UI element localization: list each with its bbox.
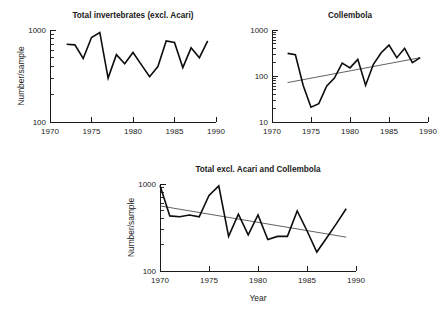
chart-panel-collembola: Collembola10100100019701975198019851990 <box>232 4 436 152</box>
y-tick-label: 100 <box>33 118 47 127</box>
y-tick-label: 100 <box>143 267 157 276</box>
x-tick-label: 1975 <box>83 127 101 136</box>
chart-panel-total-invertebrates: Total invertebrates (excl. Acari)1001000… <box>6 4 222 152</box>
x-tick-label: 1990 <box>347 276 365 285</box>
data-series-line <box>288 45 421 107</box>
y-tick-label: 10 <box>259 118 268 127</box>
trend-line <box>160 206 346 237</box>
chart-svg-total-invertebrates-excl-acari: Total invertebrates (excl. Acari)1001000… <box>6 4 222 152</box>
x-tick-label: 1980 <box>124 127 142 136</box>
figure-panel-group: Total invertebrates (excl. Acari)1001000… <box>0 0 440 317</box>
x-tick-label: 1970 <box>263 127 281 136</box>
chart-title: Total invertebrates (excl. Acari) <box>72 11 193 20</box>
trend-line <box>288 58 421 83</box>
x-axis-title: Year <box>250 293 267 303</box>
y-axis-title: Number/sample <box>16 46 26 105</box>
chart-title: Collembola <box>328 11 373 20</box>
chart-title: Total excl. Acari and Collembola <box>195 165 321 174</box>
x-tick-label: 1980 <box>341 127 359 136</box>
x-tick-label: 1990 <box>207 127 225 136</box>
x-tick-label: 1985 <box>166 127 184 136</box>
axis-lines <box>160 184 356 271</box>
y-tick-label: 1000 <box>250 26 268 35</box>
y-tick-label: 100 <box>255 72 269 81</box>
axis-lines <box>272 30 428 122</box>
chart-svg-total-excl-acari-and-collembola: Total excl. Acari and Collembola10010001… <box>112 160 364 315</box>
x-tick-label: 1985 <box>298 276 316 285</box>
y-tick-label: 1000 <box>138 180 156 189</box>
data-series-line <box>160 186 346 253</box>
x-tick-label: 1980 <box>249 276 267 285</box>
y-axis-title: Number/sample <box>126 198 136 257</box>
y-tick-label: 1000 <box>28 26 46 35</box>
x-tick-label: 1975 <box>200 276 218 285</box>
axis-lines <box>50 30 216 122</box>
chart-svg-collembola: Collembola10100100019701975198019851990 <box>232 4 436 152</box>
data-series-line <box>67 32 208 78</box>
x-tick-label: 1975 <box>302 127 320 136</box>
x-tick-label: 1985 <box>380 127 398 136</box>
x-tick-label: 1990 <box>419 127 437 136</box>
x-tick-label: 1970 <box>151 276 169 285</box>
chart-panel-total-excl-acari-collembola: Total excl. Acari and Collembola10010001… <box>112 160 364 315</box>
x-tick-label: 1970 <box>41 127 59 136</box>
